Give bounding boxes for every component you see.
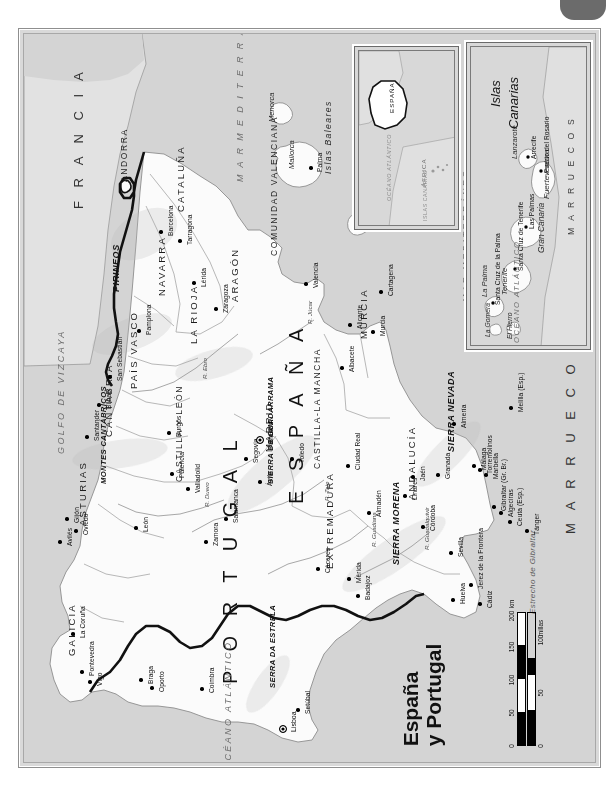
city-dot-alicante [348, 323, 351, 326]
map-title-line2: y Portugal [422, 643, 445, 746]
city-dot-tarragona [178, 239, 181, 242]
canarias-morocco-label: M A R R U E C O S [567, 117, 576, 235]
city-dot-ciudad-real [346, 464, 349, 467]
locator-label-ocean: OCÉANO ATLÁNTICO [387, 134, 392, 201]
city-label-avila: Ávila [267, 471, 274, 486]
water-label-oceano-atlantico: OCÉANO ATLÁNTICO [224, 641, 233, 763]
city-label-valencia: Valencia [313, 262, 320, 288]
city-label-almaden: Almadén [376, 490, 383, 517]
city-dot-zamora [204, 540, 207, 543]
range-label-serra-da-estrela: SERRA DA ESTRELA [269, 605, 277, 688]
scale-km-tick-3: 150 [508, 642, 515, 653]
city-label-lerida: Lérida [201, 268, 208, 287]
city-label-oporto: Oporto [159, 671, 166, 692]
canarias-ocean-label: OCÉANO ATLÁNTICO [513, 241, 521, 343]
map-title: España y Portugal [400, 643, 445, 746]
city-dot-salamanca [224, 517, 227, 520]
canarias-city-santa-cruz-palma: Santa Cruz de la Palma [495, 233, 502, 305]
scale-bar-km [517, 612, 526, 746]
canarias-city-las-palmas: Las Palmas [529, 194, 536, 229]
city-dot-aviles [58, 540, 61, 543]
city-label-san-sebastian: San Sebastián [117, 337, 124, 381]
city-dot-avila [258, 480, 261, 483]
city-label-cordoba: Córdoba [430, 505, 437, 531]
city-dot-cordoba [421, 525, 424, 528]
region-label-cataluna: CATALUÑA [176, 145, 186, 212]
map-title-line1: España [400, 643, 423, 746]
canarias-city-arrecife: Arrecife [531, 135, 538, 159]
scale-mi-unit: millas [537, 620, 544, 636]
city-dot-pontevedra [80, 670, 83, 673]
city-dot-cartagena [379, 290, 382, 293]
city-dot-badajoz [356, 594, 359, 597]
region-label-castilla-la-mancha: CASTILLA-LA MANCHA [313, 348, 322, 469]
city-label-tarragona: Tarragona [187, 214, 194, 245]
city-dot-melilla-esp [509, 406, 512, 409]
city-dot-la-coruna [71, 632, 74, 635]
water-label-golfo-de-vizcaya: GOLFO DE VIZCAYA [57, 329, 66, 454]
city-label-bilbao: Bilbao [106, 390, 113, 409]
city-dot-merida [347, 577, 350, 580]
city-dot-sevilla [449, 551, 452, 554]
country-label-e-s-p-a-n-a: E S P A Ñ A [286, 322, 306, 504]
canarias-island-la-palma: La Palma [481, 265, 489, 297]
city-label-palencia: Palencia [179, 452, 186, 478]
city-dot-santander [85, 435, 88, 438]
city-label-cartagena: Cartagena [388, 264, 395, 296]
city-dot-ceuta-esp [508, 520, 511, 523]
river-label-r-jucar: R. Júcar [307, 301, 313, 324]
corner-artifact [560, 0, 606, 20]
scale-mi-tick-2: 100 [537, 635, 544, 646]
city-dot-burgos [167, 431, 170, 434]
city-label-jaen: Jaén [420, 466, 427, 481]
river-label-r-ebro: R. Ebro [202, 358, 208, 379]
city-label-coimbra: Coimbra [209, 667, 216, 693]
city-dot-albacete [340, 366, 343, 369]
range-label-sierra-nevada: SIERRA NEVADA [447, 371, 456, 452]
city-label-merida: Mérida [356, 562, 363, 583]
island-label-mallorca: Mallorca [288, 140, 296, 169]
city-label-badajoz: Badajoz [365, 575, 372, 600]
city-label-albacete: Albacete [349, 346, 356, 372]
canarias-title-line1: Islas [489, 80, 502, 107]
canarias-island-la-gomera: La Gomera [485, 303, 492, 337]
city-dot-gibraltar-gr-br [492, 505, 495, 508]
city-dot-valencia [304, 282, 307, 285]
city-label-barcelona: Barcelona [168, 205, 175, 236]
city-label-palma: Palma [317, 153, 324, 172]
map-sheet: E S P A Ñ AP O R T U G A LF R A N C I AM… [18, 28, 601, 768]
title-block: España y Portugal 0 50 100 150 200 km [439, 566, 589, 754]
city-dot-setubal [296, 708, 299, 711]
scale-km-tick-1: 50 [508, 709, 515, 716]
city-dot-almeria [452, 422, 455, 425]
river-label-r-duero: R. Duero [204, 482, 210, 507]
city-dot-coimbra [200, 687, 203, 690]
scale-km-ticks: 0 50 100 150 200 km [508, 614, 517, 746]
city-label-zaragoza: Zaragoza [223, 284, 230, 313]
city-dot-linares [403, 494, 406, 497]
city-dot-tanger [525, 529, 528, 532]
city-dot-toledo [290, 457, 293, 460]
city-label-linares: Linares [412, 478, 419, 500]
city-label-melilla-esp: Melilla (Esp.) [518, 372, 525, 412]
scale-mi-tick-0: 0 [537, 744, 544, 748]
canarias-island-gran-canaria: Gran Canaria [537, 203, 545, 253]
locator-label-espana: ESPAÑA [389, 82, 395, 113]
city-label-alicante: Alicante [357, 305, 364, 329]
range-label-sierra-morena: SIERRA MORENA [392, 481, 401, 565]
city-label-toledo: Toledo [299, 443, 306, 463]
city-label-murcia: Murcia [380, 316, 387, 336]
city-label-la-coruna: La Coruña [80, 606, 87, 638]
scale-km-tick-4: 200 [508, 611, 515, 622]
city-label-burgos: Burgos [176, 416, 183, 438]
city-label-salamanca: Salamanca [233, 489, 240, 523]
city-dot-lerida [192, 281, 195, 284]
city-label-caceres: Cáceres [325, 548, 332, 573]
city-dot-jaen [411, 475, 414, 478]
city-label-granada: Granada [445, 453, 452, 479]
scale-miles-ticks: 0 50 100 millas [537, 614, 547, 746]
country-label-andorra: ANDORRA [120, 128, 129, 182]
city-dot-vigo [88, 680, 91, 683]
scale-bar: 0 50 100 150 200 km [508, 612, 547, 746]
city-label-gijon: Gijón [74, 507, 81, 523]
